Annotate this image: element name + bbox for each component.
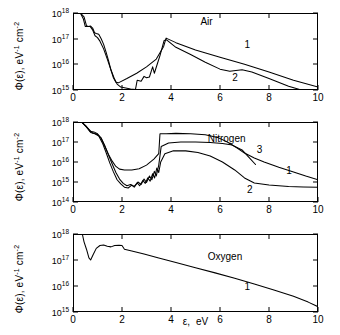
x-axis-title: ε,eV (73, 316, 318, 327)
curve-label-n2-2: 2 (247, 184, 253, 195)
curves-air (73, 13, 318, 90)
x-tick-n2-5: 10 (312, 202, 323, 215)
y-axis-title-oxygen: Φ(ε), eV-1 cm-2 (13, 231, 25, 327)
curve-label-o2-1: 1 (245, 281, 251, 292)
y-tick-air-1: 1017 (52, 33, 73, 44)
y-tick-n2-3: 1015 (52, 177, 73, 188)
x-tick-air-0: 0 (70, 90, 76, 103)
curve-nitrogen-3 (82, 122, 256, 186)
x-tick-air-3: 6 (217, 90, 223, 103)
x-tick-n2-2: 4 (168, 202, 174, 215)
y-tick-o2-0: 1018 (52, 229, 73, 240)
plot-area-air: 1018 1017 1016 1015 0 2 4 6 8 10 Air 1 2 (73, 13, 318, 90)
gas-label-air: Air (200, 16, 212, 27)
curve-nitrogen-1 (82, 122, 318, 180)
plot-area-oxygen: 1018 1017 1016 1015 0 2 4 6 8 10 Oxygen … (73, 234, 318, 312)
y-tick-air-0: 1018 (52, 8, 73, 19)
y-tick-o2-2: 1016 (52, 281, 73, 292)
x-tick-air-5: 10 (312, 90, 323, 103)
curve-nitrogen-2 (82, 122, 318, 188)
curve-label-air-2: 2 (232, 72, 238, 83)
curve-oxygen-1 (82, 234, 318, 307)
y-axis-title-air: Φ(ε), eV-1 cm-2 (13, 8, 25, 104)
y-tick-n2-1: 1017 (52, 137, 73, 148)
curves-nitrogen (73, 122, 318, 202)
y-tick-n2-2: 1016 (52, 157, 73, 168)
x-tick-air-1: 2 (119, 90, 125, 103)
x-tick-n2-4: 8 (266, 202, 272, 215)
gas-label-oxygen: Oxygen (208, 251, 242, 262)
x-tick-n2-1: 2 (119, 202, 125, 215)
y-tick-n2-0: 1018 (52, 117, 73, 128)
y-tick-air-2: 1016 (52, 59, 73, 70)
curve-label-air-1: 1 (245, 39, 251, 50)
curve-label-n2-1: 1 (286, 165, 292, 176)
curve-label-n2-3: 3 (257, 144, 263, 155)
x-tick-n2-3: 6 (217, 202, 223, 215)
x-tick-air-4: 8 (266, 90, 272, 103)
x-tick-air-2: 4 (168, 90, 174, 103)
y-tick-o2-1: 1017 (52, 254, 73, 265)
curves-oxygen (73, 234, 318, 312)
plot-area-nitrogen: 1018 1017 1016 1015 1014 0 2 4 6 8 10 Ni… (73, 122, 318, 202)
y-axis-title-nitrogen: Φ(ε), eV-1 cm-2 (13, 119, 25, 215)
x-tick-n2-0: 0 (70, 202, 76, 215)
panel-air: Φ(ε), eV-1 cm-2 1018 1017 1016 1015 0 2 … (0, 0, 340, 112)
gas-label-nitrogen: Nitrogen (208, 133, 246, 144)
panel-nitrogen: Φ(ε), eV-1 cm-2 1018 1017 1016 1015 1014… (0, 112, 340, 222)
curve-air-1 (80, 13, 318, 87)
